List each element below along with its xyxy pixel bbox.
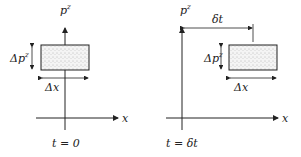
dx-label: Δx <box>45 82 59 93</box>
dx-label: Δx <box>234 82 248 93</box>
x-axis-label: x <box>282 113 288 124</box>
time-label: t = 0 <box>52 138 80 149</box>
panel-t0 <box>32 28 118 130</box>
x-axis-label: x <box>122 113 128 124</box>
y-axis-label: pz <box>180 4 191 16</box>
phase-cell <box>229 45 277 70</box>
dp-label: Δpz <box>10 52 29 64</box>
shift-label: δt <box>212 14 223 25</box>
time-label: t = δt <box>166 138 198 149</box>
y-axis-label: pz <box>60 4 71 16</box>
phase-cell <box>41 45 89 70</box>
panel-dt <box>166 24 278 130</box>
dp-label: Δpz <box>204 52 223 64</box>
phase-space-diagram <box>0 0 301 157</box>
